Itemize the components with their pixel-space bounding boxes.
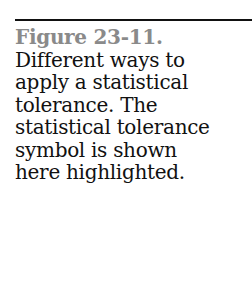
- figure-number-label: Figure 23-11.: [15, 26, 252, 49]
- caption-text-line: tolerance. The: [15, 94, 252, 117]
- caption-text-line: apply a statistical: [15, 71, 252, 94]
- figure-caption: Figure 23-11. Different ways to apply a …: [15, 26, 252, 184]
- caption-text-line: here highlighted.: [15, 161, 252, 184]
- caption-top-rule: [15, 19, 252, 21]
- caption-text-line: statistical tolerance: [15, 116, 252, 139]
- caption-text-line: Different ways to: [15, 49, 252, 72]
- caption-text-line: symbol is shown: [15, 139, 252, 162]
